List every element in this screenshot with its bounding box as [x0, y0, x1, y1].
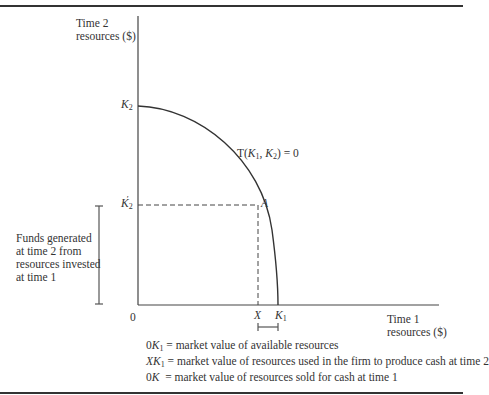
- legend-item: 0K1 = market value of available resource…: [146, 339, 489, 355]
- k2-label: K2: [121, 98, 133, 114]
- legend: 0K1 = market value of available resource…: [146, 339, 489, 387]
- legend-item: 0K = market value of resources sold for …: [146, 371, 489, 387]
- x-axis-label: Time 1 resources ($): [387, 313, 447, 339]
- point-a-label: A: [261, 197, 268, 210]
- legend-item: XK1 = market value of resources used in …: [146, 355, 489, 371]
- x-label: X: [254, 309, 261, 322]
- origin-label: 0: [130, 311, 136, 324]
- k2prime-label: K2′: [121, 197, 135, 213]
- funds-bracket-label: Funds generated at time 2 from resources…: [16, 232, 101, 284]
- y-axis-label: Time 2 resources ($): [76, 17, 136, 43]
- k1-label: K1: [275, 309, 287, 325]
- curve-label: T(K1, K2) = 0: [237, 147, 299, 163]
